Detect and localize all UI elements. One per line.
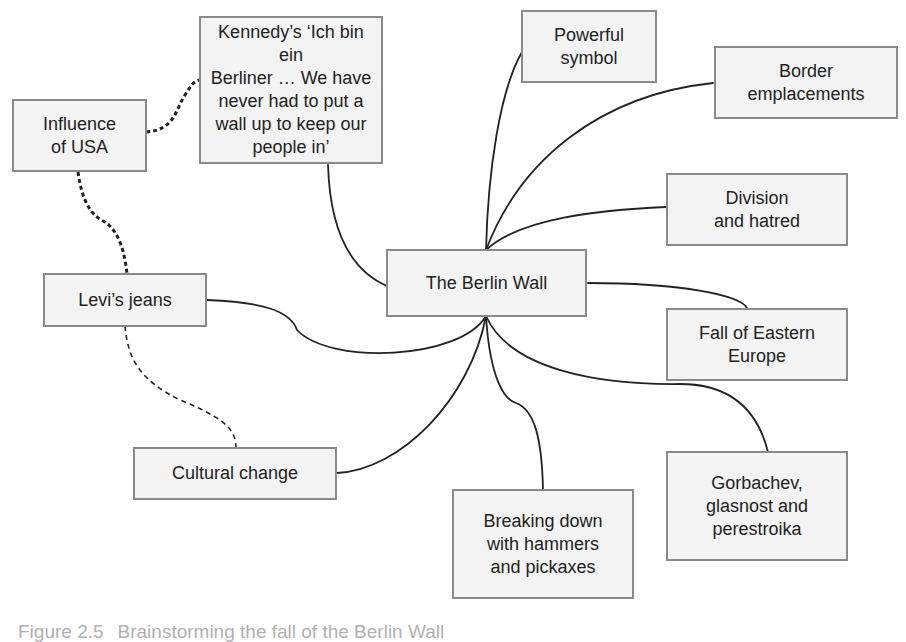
node-label: Kennedy’s ‘Ich bin ein Berliner … We hav… bbox=[207, 21, 375, 159]
mind-map-diagram: Kennedy’s ‘Ich bin ein Berliner … We hav… bbox=[0, 0, 906, 642]
node-division-and-hatred: Division and hatred bbox=[666, 173, 848, 246]
node-label: Breaking down with hammers and pickaxes bbox=[483, 510, 602, 579]
edge-influence-kennedy bbox=[146, 80, 199, 132]
node-gorbachev: Gorbachev, glasnost and perestroika bbox=[666, 451, 848, 561]
node-label: Gorbachev, glasnost and perestroika bbox=[706, 472, 808, 541]
edge-fall-eastern-europe bbox=[588, 283, 747, 308]
edge-breaking-down bbox=[486, 316, 543, 490]
central-node-label: The Berlin Wall bbox=[426, 272, 547, 295]
node-influence-of-usa: Influence of USA bbox=[12, 99, 147, 172]
node-levis-jeans: Levi’s jeans bbox=[43, 273, 207, 327]
node-breaking-down: Breaking down with hammers and pickaxes bbox=[452, 489, 634, 599]
node-label: Levi’s jeans bbox=[78, 289, 172, 312]
edge-influence-levis bbox=[78, 172, 127, 274]
node-label: Border emplacements bbox=[747, 60, 864, 106]
node-border-emplacements: Border emplacements bbox=[714, 46, 898, 119]
node-fall-of-eastern-europe: Fall of Eastern Europe bbox=[666, 308, 848, 381]
figure-caption-text: Brainstorming the fall of the Berlin Wal… bbox=[118, 621, 445, 642]
edge-cultural-change bbox=[337, 316, 486, 473]
node-the-berlin-wall: The Berlin Wall bbox=[386, 249, 587, 317]
node-label: Influence of USA bbox=[43, 113, 116, 159]
node-label: Powerful symbol bbox=[554, 24, 624, 70]
figure-number: Figure 2.5 bbox=[18, 621, 104, 642]
edge-powerful-symbol bbox=[486, 52, 522, 250]
node-cultural-change: Cultural change bbox=[133, 447, 337, 500]
edge-kennedy bbox=[328, 165, 387, 286]
node-kennedy-quote: Kennedy’s ‘Ich bin ein Berliner … We hav… bbox=[199, 16, 383, 164]
node-label: Fall of Eastern Europe bbox=[699, 322, 815, 368]
edge-levis-cultural bbox=[125, 326, 236, 447]
node-label: Cultural change bbox=[172, 462, 298, 485]
figure-caption: Figure 2.5Brainstorming the fall of the … bbox=[18, 621, 444, 642]
node-powerful-symbol: Powerful symbol bbox=[521, 10, 657, 83]
node-label: Division and hatred bbox=[714, 187, 800, 233]
edge-division-hatred bbox=[486, 207, 666, 250]
